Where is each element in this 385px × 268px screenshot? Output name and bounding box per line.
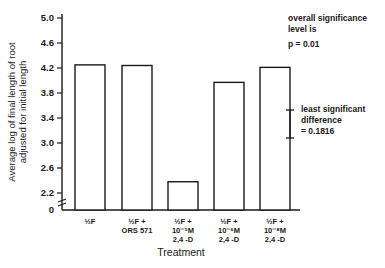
x-category-label: 2,4 -D <box>265 235 286 244</box>
y-baseline-label: 0 <box>49 204 54 215</box>
x-category-label: 2,4 -D <box>219 235 240 244</box>
bar-chart-figure: 5.04.64.23.83.43.02.62.20½F½F +ORS 571½F… <box>0 0 385 268</box>
x-category-label: ½F <box>85 217 96 226</box>
x-category-label: ½F + <box>128 217 146 226</box>
lsd-annotation: least significant difference = 0.1816 <box>284 104 384 143</box>
y-axis-title: Average log of final length of root <box>6 42 17 182</box>
y-tick-label: 5.0 <box>41 12 54 23</box>
y-tick-label: 3.4 <box>41 112 55 123</box>
significance-annotation: overall significance level is p = 0.01 <box>288 13 383 50</box>
lsd-text: least significant difference = 0.1816 <box>301 104 365 137</box>
x-category-label: ORS 571 <box>122 226 153 235</box>
bar <box>168 182 198 210</box>
bar <box>214 82 244 210</box>
y-tick-label: 3.0 <box>41 137 54 148</box>
x-category-label: 10⁻⁶M <box>218 226 240 235</box>
lsd-text-line2: difference <box>301 115 365 126</box>
y-axis-title: adjusted for initial length <box>17 61 28 163</box>
y-tick-label: 2.2 <box>41 187 54 198</box>
y-tick-label: 4.6 <box>41 37 54 48</box>
y-tick-label: 2.6 <box>41 162 54 173</box>
x-category-label: ½F + <box>266 217 284 226</box>
x-category-label: 10⁻⁸M <box>264 226 286 235</box>
significance-text-line1: overall significance <box>288 13 383 24</box>
p-value: p = 0.01 <box>288 39 383 50</box>
x-axis-title: Treatment <box>157 246 205 258</box>
lsd-text-line1: least significant <box>301 104 365 115</box>
y-tick-label: 4.2 <box>41 62 54 73</box>
x-category-label: 10⁻⁵M <box>172 226 194 235</box>
x-category-label: ½F + <box>174 217 192 226</box>
x-category-label: ½F + <box>220 217 238 226</box>
bar <box>122 66 152 211</box>
x-category-label: 2,4 -D <box>173 235 194 244</box>
lsd-error-bar-icon <box>284 107 296 143</box>
y-tick-label: 3.8 <box>41 87 54 98</box>
lsd-value: = 0.1816 <box>301 126 365 137</box>
bar <box>75 65 105 210</box>
significance-text-line2: level is <box>288 24 383 35</box>
